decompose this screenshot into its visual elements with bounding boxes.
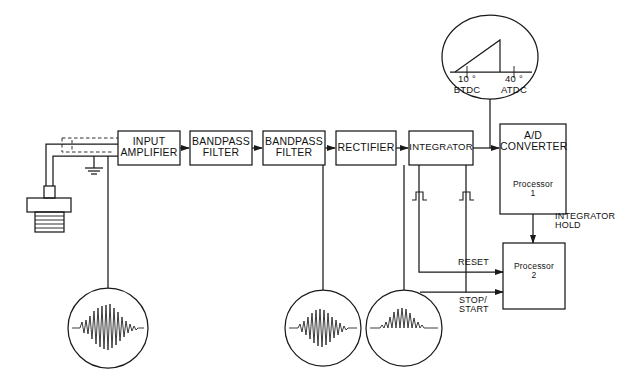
sensor-wiring [46, 138, 118, 174]
ground-icon [85, 156, 103, 174]
rectified-waveform-trace [370, 308, 438, 328]
knock-sensor-icon [27, 174, 71, 232]
tap-lines [108, 156, 404, 290]
raw-waveform-trace [72, 304, 144, 350]
timing-window-inset [442, 15, 538, 148]
knock-detection-diagram: INPUT AMPLIFIER BANDPASS FILTER BANDPASS… [0, 0, 642, 388]
filtered-waveform-trace [289, 309, 357, 347]
diagram-canvas [0, 0, 642, 388]
control-lines [419, 165, 533, 292]
pulse-glyphs [412, 192, 474, 200]
block-outlines [118, 124, 566, 309]
